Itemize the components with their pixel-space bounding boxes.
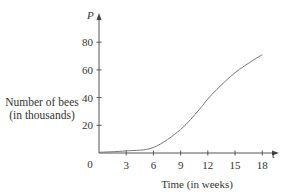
x-tick-label: 12: [202, 159, 213, 171]
axes: [97, 13, 280, 156]
x-tick-label: 9: [178, 159, 184, 171]
x-tick-label: 6: [151, 159, 157, 171]
x-tick-label: 15: [230, 159, 242, 171]
chart: 36912151820406080 Time (in weeks) t P 0: [0, 0, 297, 196]
x-tick-label: 3: [123, 159, 129, 171]
y-tick-label: 20: [82, 119, 94, 131]
y-tick-label: 80: [82, 36, 94, 48]
y-tick-label: 40: [82, 92, 94, 104]
x-axis-title: Time (in weeks): [161, 178, 233, 191]
origin-label: 0: [87, 158, 93, 170]
population-curve: [99, 55, 262, 153]
y-axis-symbol: P: [86, 9, 94, 21]
y-axis-arrow-icon: [97, 13, 102, 20]
x-tick-label: 18: [257, 159, 269, 171]
y-tick-label: 60: [82, 64, 94, 76]
ticks: 36912151820406080: [82, 36, 268, 171]
